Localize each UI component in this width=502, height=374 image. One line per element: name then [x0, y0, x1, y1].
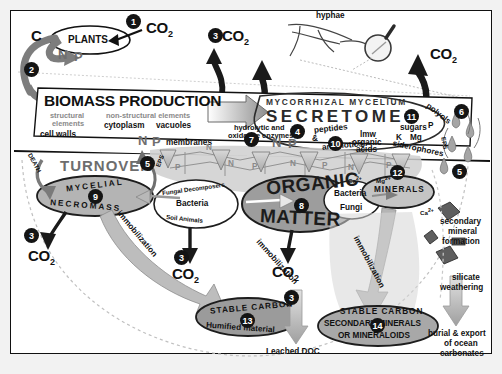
non-structural-label: non-structural elements: [106, 112, 190, 119]
co2-arrowhead-right: [408, 54, 428, 76]
badge-4[interactable]: 4: [290, 124, 305, 139]
n-label-biomass: N: [138, 134, 147, 147]
nitrogen-label-top: N: [58, 48, 67, 61]
badge-13[interactable]: 13: [240, 313, 255, 328]
badge-11[interactable]: 11: [404, 109, 419, 124]
co2-respiration-arrowhead-left: [206, 48, 222, 64]
badge-5-right[interactable]: 5: [452, 164, 467, 179]
badge-2[interactable]: 2: [24, 62, 39, 77]
diagram-canvas: PLANTS C N P CO2 CO2 CO2 hyphae BIOMASS …: [0, 0, 502, 374]
p-marker-mat-2: P: [252, 163, 257, 171]
k-label: K: [396, 134, 402, 142]
co2-label-decomposers: CO2: [172, 266, 199, 285]
badge-3-decomposers[interactable]: 3: [174, 250, 189, 265]
badge-10[interactable]: 10: [328, 136, 343, 151]
magnifier-handle-icon: [386, 26, 394, 38]
mineraloids-label: OR MINERALOIDS: [338, 332, 410, 340]
badge-7[interactable]: 7: [244, 132, 259, 147]
p-label-secretome: P: [428, 122, 433, 130]
badge-12[interactable]: 12: [390, 165, 405, 180]
of-ocean-label: of ocean: [444, 340, 478, 348]
secondary-label: secondary: [440, 218, 481, 226]
ca-label-mat: Ca2+: [348, 176, 362, 184]
leached-doc-label: Leached DOC: [266, 348, 320, 356]
co2-arrowhead-center: [252, 60, 272, 80]
phosphorus-label-top: P: [74, 50, 83, 63]
n-marker-mat-1: N: [206, 144, 212, 152]
co2-respiration-arrow-left: [214, 62, 222, 95]
co2-label-1: CO2: [146, 20, 173, 39]
minerals-label: MINERALS: [374, 186, 425, 194]
n-marker-mat-2: N: [228, 160, 234, 168]
p-label-secretome-2: P: [288, 137, 297, 150]
badge-5-left[interactable]: 5: [140, 156, 155, 171]
turnover-label: TURNOVER: [60, 158, 152, 173]
badge-3-necromass[interactable]: 3: [24, 228, 39, 243]
co2-uptake-arrowhead: [108, 34, 119, 46]
bacteria-label-right: Bacteria: [334, 190, 366, 198]
fungi-label: Fungi: [340, 204, 362, 212]
badge-9[interactable]: 9: [88, 189, 103, 204]
n-label-secretome: N: [272, 136, 281, 149]
stable-carbon-label-right: STABLE CARBON: [340, 308, 423, 316]
co2-label-om: CO2: [272, 264, 299, 283]
n-marker-mat-3: N: [290, 160, 296, 168]
organic-acids-label-2: acids: [356, 146, 377, 154]
co2-label-necromass: CO2: [28, 248, 55, 267]
silicate-label: silicate: [452, 274, 480, 282]
badge-6[interactable]: 6: [454, 104, 469, 119]
cytoplasm-label: cytoplasm: [104, 122, 145, 130]
hyphae-drawing: [288, 24, 366, 56]
biomass-production-title: BIOMASS PRODUCTION: [44, 93, 221, 109]
badge-14[interactable]: 14: [370, 318, 385, 333]
badge-8[interactable]: 8: [294, 198, 309, 213]
mycorrhizal-mycelium-label: MYCORRHIZAL MYCELIUM: [266, 98, 407, 106]
carbonates-label: carbonates: [440, 350, 484, 358]
cell-walls-label: cell walls: [40, 131, 76, 139]
p-marker-mat-1: P: [175, 164, 180, 172]
mg-label-secretome: Mg: [410, 134, 422, 142]
p-label-biomass: P: [152, 135, 161, 148]
badge-3-om[interactable]: 3: [284, 290, 299, 305]
weathering-label: weathering: [440, 284, 483, 292]
hyphae-label: hyphae: [316, 12, 345, 20]
burial-export-label: burial & export: [428, 330, 486, 338]
elements-label: elements: [52, 120, 84, 127]
p-marker-mat-3: P: [322, 162, 327, 170]
ampersand-label: &: [312, 135, 318, 143]
mg-label-mat: Mg2+: [376, 176, 391, 184]
formation-label: formation: [442, 238, 480, 246]
badge-1[interactable]: 1: [126, 14, 141, 29]
oxidative-enzymes-label: oxidative enzymes: [228, 132, 293, 139]
bacteria-label-left: Bacteria: [176, 200, 208, 208]
magnifier-link-line: [352, 58, 372, 70]
vacuoles-label: vacuoles: [156, 122, 191, 130]
co2-label-right: CO2: [430, 46, 457, 65]
ca-label-weathering: Ca2+: [420, 208, 434, 216]
badge-3-top[interactable]: 3: [208, 28, 223, 43]
carbon-label: C: [31, 28, 42, 43]
mineral-label: mineral: [448, 228, 477, 236]
sugars-label: sugars: [400, 124, 427, 132]
co2-label-3a: CO2: [222, 28, 249, 47]
plants-label: PLANTS: [68, 35, 108, 45]
eps-label-right: EPS: [440, 136, 448, 149]
